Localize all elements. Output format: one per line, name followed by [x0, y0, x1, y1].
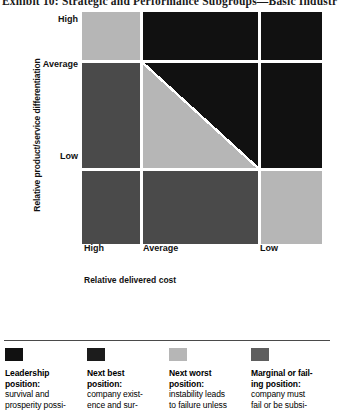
legend-item-marginal[interactable]: Marginal or fail- ing position: company …	[251, 348, 333, 410]
legend: Leadership position: survival and prospe…	[5, 348, 334, 410]
matrix-cell-low-low[interactable]	[261, 171, 322, 244]
legend-heading-marginal-line2: ing position:	[251, 379, 329, 390]
legend-body-next-worst-line2: to failure unless	[169, 400, 247, 411]
matrix-cell-average-high[interactable]	[82, 63, 140, 168]
matrix-cell-high-average[interactable]	[143, 12, 258, 60]
legend-item-leadership[interactable]: Leadership position: survival and prospe…	[5, 348, 87, 410]
legend-body-leadership-line2: prosperity possi-	[5, 400, 83, 411]
y-axis-tick-average: Average	[30, 59, 78, 69]
legend-body-leadership-line1: survival and	[5, 389, 83, 400]
matrix-cell-average-average[interactable]	[143, 63, 258, 168]
matrix-cell-low-average[interactable]	[143, 171, 258, 244]
x-axis-title: Relative delivered cost	[84, 275, 176, 285]
legend-body-marginal-line2: fail or be subsi-	[251, 400, 329, 411]
matrix-cell-high-high[interactable]	[82, 12, 140, 60]
legend-swatch-next-best	[87, 348, 105, 361]
legend-heading-next-best-line2: position:	[87, 379, 165, 390]
x-axis-tick-low: Low	[260, 243, 278, 253]
x-axis-tick-high: High	[84, 243, 104, 253]
legend-heading-leadership-line2: position:	[5, 379, 83, 390]
x-axis-tick-average: Average	[143, 243, 178, 253]
legend-heading-next-worst-line2: position:	[169, 379, 247, 390]
y-axis-tick-high: High	[30, 14, 78, 24]
y-axis-tick-low: Low	[30, 151, 78, 161]
legend-divider	[4, 340, 330, 341]
legend-heading-next-worst-line1: Next worst	[169, 368, 247, 379]
legend-swatch-next-worst	[169, 348, 187, 361]
legend-swatch-marginal	[251, 348, 269, 361]
legend-item-next-best[interactable]: Next best position: company exist- ence …	[87, 348, 169, 410]
legend-heading-marginal-line1: Marginal or fail-	[251, 368, 329, 379]
legend-heading-leadership-line1: Leadership	[5, 368, 83, 379]
legend-body-marginal-line1: company must	[251, 389, 329, 400]
matrix-cell-average-low[interactable]	[261, 63, 322, 168]
legend-body-next-worst-line1: instability leads	[169, 389, 247, 400]
matrix-cell-high-low[interactable]	[261, 12, 322, 60]
legend-item-next-worst[interactable]: Next worst position: instability leads t…	[169, 348, 251, 410]
legend-swatch-leadership	[5, 348, 23, 361]
legend-body-next-best-line2: ence and sur-	[87, 400, 165, 411]
y-axis-title: Relative product/service differentiation	[32, 45, 42, 225]
matrix-grid	[82, 12, 316, 238]
exhibit-title: Exhibit 10: Strategic and Performance Su…	[2, 0, 342, 7]
legend-heading-next-best-line1: Next best	[87, 368, 165, 379]
matrix-chart: Relative product/service differentiation…	[0, 12, 334, 312]
matrix-cell-low-high[interactable]	[82, 171, 140, 244]
legend-body-next-best-line1: company exist-	[87, 389, 165, 400]
